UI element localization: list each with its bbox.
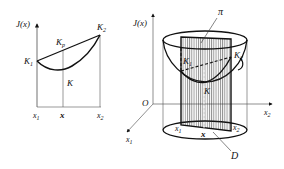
label-k2: K2: [96, 22, 106, 33]
domain-label: D: [230, 150, 239, 161]
origin-label: O: [142, 98, 149, 108]
x1-axis: [127, 104, 153, 132]
curve-j: [37, 35, 100, 70]
chord-k1-k2: [37, 35, 100, 61]
x1-axis-label: x1: [125, 135, 133, 145]
base-x-label: x: [200, 129, 206, 139]
tick-x2: x2: [96, 111, 104, 121]
y-axis-label: J(x): [16, 19, 30, 29]
label-k-3d: K: [203, 86, 211, 96]
label-k1: K1: [23, 56, 33, 67]
tick-x: x: [59, 110, 65, 120]
diagram-canvas: J(x) K1 K2 Kp K x1 x x2: [0, 0, 284, 169]
left-plot: J(x) K1 K2 Kp K x1 x x2: [16, 19, 106, 121]
tick-x1: x1: [32, 111, 40, 121]
right-3d-figure: J(x) O π D K1 K2 K x2 x1 x1 x x2: [125, 6, 272, 161]
x2-axis-label: x2: [263, 108, 271, 118]
label-k: K: [66, 78, 74, 88]
vertical-axis-label: J(x): [133, 18, 147, 28]
plane-label: π: [218, 6, 224, 17]
plane-pi: [181, 37, 231, 131]
label-kp: Kp: [55, 37, 65, 48]
